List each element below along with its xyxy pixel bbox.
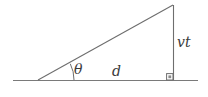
hypotenuse-line — [38, 5, 173, 80]
geometry-figure: θ d vt — [0, 0, 208, 97]
height-label-vt: vt — [177, 35, 191, 49]
right-angle-marker-dot — [168, 75, 171, 78]
angle-label-theta: θ — [74, 62, 82, 76]
base-label-d: d — [112, 64, 121, 78]
